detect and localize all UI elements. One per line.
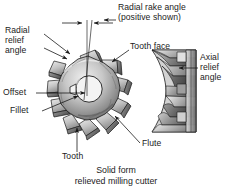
label-radial-rake-angle-line2: (positive shown) [118,13,181,23]
label-radial-relief-angle-line3: angle [5,46,26,56]
milling-cutter-figure: Radial rake angle (positive shown) Radia… [0,0,232,192]
caption-line-2: relieved milling cutter [0,176,232,186]
label-tooth-face: Tooth face [130,42,170,52]
radial-relief-leader-1 [44,34,70,54]
cutter-side-view [152,50,196,132]
radial-relief-leader-2 [44,48,67,59]
milling-cutter-illustration [0,0,232,192]
label-flute: Flute [142,139,161,149]
cutter-front-view [47,50,132,140]
flute-leader [115,116,140,143]
label-fillet: Fillet [10,106,28,116]
tooth-face-leader [112,50,129,62]
label-tooth: Tooth [62,152,83,162]
caption-line-1: Solid form [0,165,232,175]
label-axial-relief-angle-line3: angle [200,73,221,83]
label-offset: Offset [3,88,26,98]
